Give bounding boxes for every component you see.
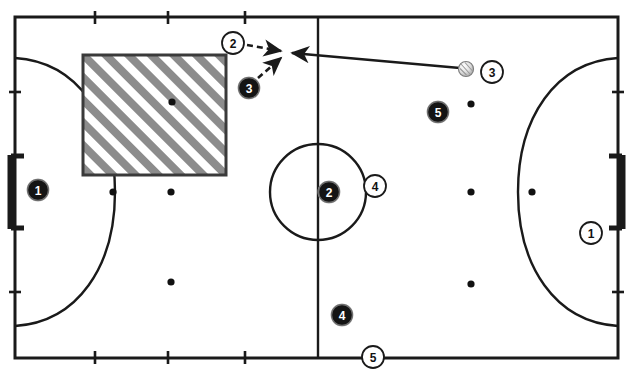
ball	[459, 62, 474, 77]
player-dark-4[interactable]: 4	[331, 304, 354, 327]
cone-left-lower	[167, 278, 174, 285]
player-dark-3[interactable]: 3	[238, 77, 261, 100]
cone-right-lower	[467, 280, 474, 287]
player-dark-1[interactable]: 1	[27, 179, 50, 202]
player-light-2-label: 2	[230, 37, 237, 51]
player-light-4-label: 4	[372, 180, 379, 194]
cone-right-upper	[467, 100, 474, 107]
player-light-3[interactable]: 3	[481, 61, 503, 83]
player-dark-2[interactable]: 2	[318, 181, 341, 204]
player-dark-5[interactable]: 5	[427, 101, 450, 124]
cone-zone-center	[168, 98, 175, 105]
player-light-4[interactable]: 4	[364, 175, 386, 197]
player-dark-1-label: 1	[35, 184, 42, 198]
player-dark-5-label: 5	[435, 106, 442, 120]
player-dark-2-label: 2	[326, 186, 333, 200]
futsal-court-diagram: 1 3 5 2 4 2 3	[0, 0, 633, 377]
player-light-5[interactable]: 5	[362, 346, 384, 368]
player-dark-3-label: 3	[246, 82, 253, 96]
cone-right-mid	[467, 188, 474, 195]
cone-left-arc	[109, 188, 116, 195]
player-light-1-label: 1	[588, 227, 595, 241]
player-light-1[interactable]: 1	[580, 222, 602, 244]
player-light-3-label: 3	[489, 66, 496, 80]
player-light-5-label: 5	[370, 351, 377, 365]
hatched-zone	[83, 55, 226, 175]
player-dark-4-label: 4	[339, 309, 346, 323]
cone-left-mid-upper	[167, 188, 174, 195]
player-light-2[interactable]: 2	[222, 32, 244, 54]
court-svg: 1 3 5 2 4 2 3	[0, 0, 633, 377]
cone-right-arc	[528, 188, 535, 195]
